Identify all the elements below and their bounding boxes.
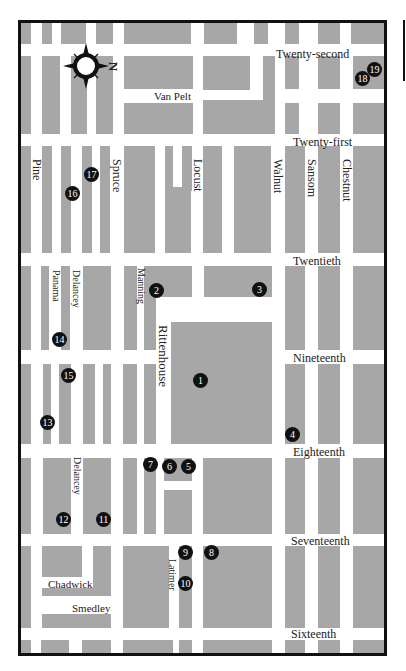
street-label-delancey-south: Delancey xyxy=(72,457,82,495)
location-marker-17[interactable]: 17 xyxy=(84,167,99,182)
city-block xyxy=(21,23,31,44)
city-block xyxy=(144,364,156,444)
street-label-rittenhouse: Rittenhouse xyxy=(157,325,170,387)
location-marker-12[interactable]: 12 xyxy=(56,512,71,527)
street-label-chestnut: Chestnut xyxy=(341,159,353,202)
city-block xyxy=(353,458,387,534)
location-marker-10[interactable]: 10 xyxy=(178,576,193,591)
city-block xyxy=(21,458,31,534)
city-block xyxy=(318,266,340,350)
city-block xyxy=(318,146,340,253)
street-label-van-pelt: Van Pelt xyxy=(154,91,191,102)
city-block xyxy=(285,458,305,534)
location-marker-19[interactable]: 19 xyxy=(367,62,382,77)
city-block xyxy=(124,23,183,44)
city-block xyxy=(21,56,31,134)
location-marker-16[interactable]: 16 xyxy=(65,186,80,201)
city-block xyxy=(179,640,192,656)
street-label-nineteenth: Nineteenth xyxy=(293,352,346,364)
city-block xyxy=(203,56,250,90)
city-block xyxy=(21,546,31,628)
city-block xyxy=(254,23,268,44)
location-marker-9[interactable]: 9 xyxy=(178,545,193,560)
location-marker-2[interactable]: 2 xyxy=(149,283,164,298)
city-block xyxy=(351,23,387,44)
location-marker-13[interactable]: 13 xyxy=(40,415,55,430)
city-block xyxy=(123,364,137,444)
location-marker-5[interactable]: 5 xyxy=(181,459,196,474)
location-marker-15[interactable]: 15 xyxy=(61,368,76,383)
city-block xyxy=(353,546,387,628)
city-block xyxy=(318,103,340,134)
city-block xyxy=(318,364,340,444)
location-marker-14[interactable]: 14 xyxy=(52,332,67,347)
city-block xyxy=(318,23,340,44)
city-block xyxy=(353,146,387,253)
street-label-locust: Locust xyxy=(192,159,204,192)
city-block xyxy=(100,146,110,253)
street-label-delancey: Delancey xyxy=(71,270,81,308)
street-label-smedley: Smedley xyxy=(72,603,111,614)
street-label-twentieth: Twentieth xyxy=(293,255,341,267)
city-block xyxy=(83,266,111,350)
location-marker-4[interactable]: 4 xyxy=(285,427,300,442)
city-block xyxy=(285,266,305,350)
city-block xyxy=(42,23,52,44)
city-block xyxy=(21,364,31,444)
location-marker-6[interactable]: 6 xyxy=(162,459,177,474)
city-block xyxy=(165,187,191,253)
city-block xyxy=(181,23,191,44)
location-marker-8[interactable]: 8 xyxy=(204,545,219,560)
city-block xyxy=(41,266,49,350)
location-marker-11[interactable]: 11 xyxy=(96,512,111,527)
location-marker-7[interactable]: 7 xyxy=(143,457,158,472)
compass-north-label: N xyxy=(107,62,120,71)
city-block xyxy=(263,56,275,100)
city-block xyxy=(42,56,60,134)
city-block xyxy=(21,266,31,350)
street-label-manning: Manning xyxy=(136,268,146,304)
city-block xyxy=(124,56,193,89)
city-block xyxy=(203,458,272,534)
city-block xyxy=(82,146,92,253)
location-marker-1[interactable]: 1 xyxy=(193,373,208,388)
city-block xyxy=(42,614,111,628)
city-block xyxy=(82,640,111,656)
street-label-spruce: Spruce xyxy=(111,159,123,192)
street-label-eighteenth: Eighteenth xyxy=(293,446,345,458)
street-label-panama: Panama xyxy=(51,270,61,302)
city-block xyxy=(318,640,340,656)
city-block xyxy=(124,103,193,134)
street-label-seventeenth: Seventeenth xyxy=(291,535,350,547)
city-block xyxy=(285,640,305,656)
city-block xyxy=(203,640,272,656)
city-block xyxy=(83,364,95,444)
street-label-pine: Pine xyxy=(31,159,43,180)
city-block xyxy=(203,100,275,134)
street-label-walnut: Walnut xyxy=(272,159,284,193)
city-block xyxy=(285,146,305,253)
street-label-latimer: Latimer xyxy=(167,559,177,591)
city-block xyxy=(285,23,299,44)
street-map: Twenty-second Van Pelt Twenty-first Twen… xyxy=(18,20,387,656)
city-block xyxy=(43,364,51,444)
city-block xyxy=(353,266,387,350)
city-block xyxy=(42,546,82,577)
city-block xyxy=(318,458,340,534)
city-block xyxy=(164,490,192,534)
page-edge-bar xyxy=(403,20,405,81)
city-block xyxy=(234,146,271,253)
location-marker-3[interactable]: 3 xyxy=(252,282,267,297)
city-block xyxy=(103,364,111,444)
street-label-twenty-second: Twenty-second xyxy=(276,48,349,60)
city-block xyxy=(353,364,387,444)
city-block xyxy=(353,103,387,134)
city-block xyxy=(21,640,31,656)
city-block xyxy=(124,146,155,253)
city-block xyxy=(318,546,340,628)
city-block xyxy=(204,23,237,44)
city-block xyxy=(171,322,272,444)
city-block xyxy=(285,546,305,628)
street-label-sansom: Sansom xyxy=(306,159,318,197)
city-block xyxy=(353,640,387,656)
